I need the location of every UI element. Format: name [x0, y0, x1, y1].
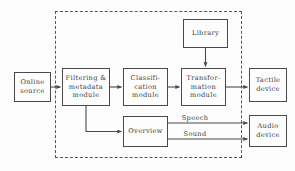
node-online-source-line-1: Online	[16, 78, 49, 87]
node-filtering-line-1: Filtering &	[64, 74, 108, 83]
node-transformation-line-2: mation	[183, 83, 224, 92]
node-transformation-module[interactable]: Transfor- mation module	[181, 68, 226, 106]
node-audio-device-line-2: device	[251, 131, 285, 140]
node-audio-device-line-1: Audio	[251, 122, 285, 131]
node-overview[interactable]: Overview	[123, 116, 168, 147]
node-classification-line-3: module	[125, 91, 166, 100]
node-tactile-device-line-2: device	[251, 85, 285, 94]
node-transformation-line-1: Transfor-	[183, 74, 224, 83]
node-classification-line-2: cation	[125, 83, 166, 92]
node-online-source[interactable]: Online source	[14, 72, 51, 102]
node-library[interactable]: Library	[183, 19, 228, 48]
node-filtering-metadata-module[interactable]: Filtering & metadata module	[62, 68, 110, 106]
node-classification-line-1: Classifi-	[125, 74, 166, 83]
node-tactile-device-line-1: Tactile	[251, 76, 285, 85]
node-transformation-line-3: module	[183, 91, 224, 100]
node-classification-module[interactable]: Classifi- cation module	[123, 68, 168, 106]
edge-label-sound: Sound	[172, 130, 218, 138]
diagram-canvas: Online source Filtering & metadata modul…	[0, 0, 295, 171]
node-filtering-line-3: module	[64, 91, 108, 100]
node-library-label: Library	[185, 29, 226, 38]
edge-label-speech: Speech	[172, 114, 218, 122]
node-filtering-line-2: metadata	[64, 83, 108, 92]
connector-filtering-to-overview	[86, 106, 122, 132]
node-audio-device[interactable]: Audio device	[249, 115, 287, 147]
node-online-source-line-2: source	[16, 87, 49, 96]
node-tactile-device[interactable]: Tactile device	[249, 68, 287, 102]
node-overview-label: Overview	[125, 127, 166, 136]
